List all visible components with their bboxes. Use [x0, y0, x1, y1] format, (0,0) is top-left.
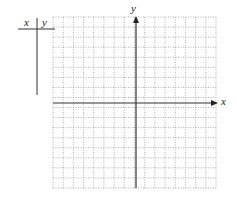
table-header-y: y [42, 17, 47, 28]
x-axis-label: x [221, 96, 226, 107]
table-header-x: x [24, 17, 29, 28]
coordinate-worksheet: x y y x [0, 0, 237, 208]
y-axis-label: y [131, 3, 136, 14]
x-axis-arrow-icon [211, 100, 218, 106]
graph-canvas [0, 0, 237, 208]
